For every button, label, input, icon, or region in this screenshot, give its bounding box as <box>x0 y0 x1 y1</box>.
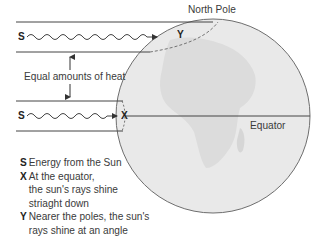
legend-item-y: YNearer the poles, the sun's <box>20 210 149 224</box>
sun-letter-top: S <box>18 30 25 43</box>
wavy-ray-bottom <box>27 114 117 119</box>
legend: SEnergy from the Sun XAt the equator, th… <box>20 156 167 237</box>
ray-band-bottom <box>16 101 125 131</box>
north-pole-label: North Pole <box>188 3 236 16</box>
wavy-ray-top <box>27 35 157 40</box>
sunlight-diagram: North Pole Equator Equal amounts of heat… <box>0 0 317 240</box>
legend-item-x: XAt the equator, <box>20 170 149 184</box>
point-x-label: X <box>121 109 128 122</box>
point-y-label: Y <box>177 28 184 41</box>
sun-letter-bottom: S <box>18 109 25 122</box>
legend-item-x-line2: the sun's rays shine <box>20 183 149 197</box>
equator-label: Equator <box>250 119 285 132</box>
legend-item-s: SEnergy from the Sun <box>20 156 149 170</box>
legend-item-y-line2: rays shine at an angle <box>20 224 149 238</box>
legend-item-x-line3: striaght down <box>20 197 149 211</box>
heat-label: Equal amounts of heat <box>24 70 125 83</box>
